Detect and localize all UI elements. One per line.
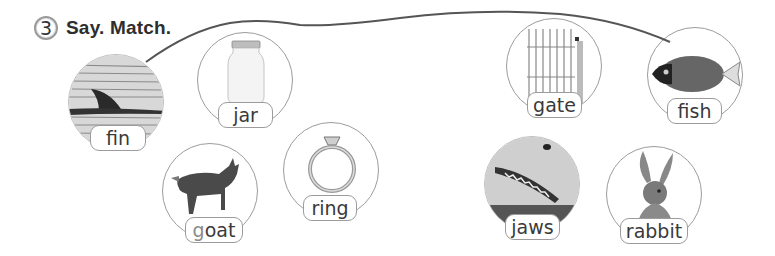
highlighted-letter: g	[193, 219, 205, 241]
word-label-ring: ring	[303, 195, 357, 221]
word-label-jar: jar	[218, 102, 273, 128]
exercise-title: Say. Match.	[66, 17, 171, 39]
word-label-rabbit: rabbit	[620, 218, 688, 244]
exercise-heading: 3 Say. Match.	[34, 16, 171, 40]
word-label-fish: fish	[667, 98, 722, 124]
exercise-number-badge: 3	[34, 16, 58, 40]
word-label-gate: gate	[527, 92, 582, 118]
word-label-fin: fin	[90, 125, 146, 151]
word-label-goat: goat	[185, 217, 243, 243]
word-label-jaws: jaws	[505, 214, 560, 240]
